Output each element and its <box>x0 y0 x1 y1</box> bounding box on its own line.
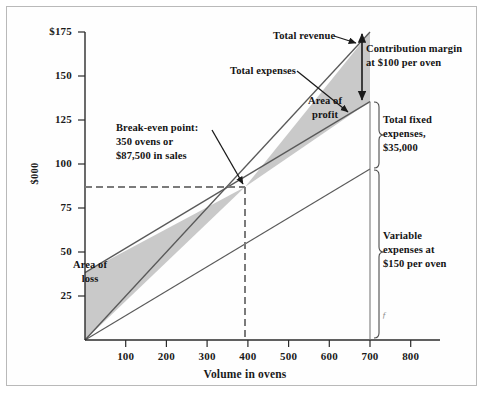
variable-expenses-line-1: Variable <box>383 229 447 243</box>
y-tick-label-150: 150 <box>26 69 72 81</box>
contribution-margin-line-2: at $100 per oven <box>366 56 462 70</box>
contribution-margin-annotation: Contribution margin at $100 per oven <box>366 42 462 70</box>
y-tick-label-50: 50 <box>26 245 72 257</box>
break-even-annotation: Break-even point: 350 ovens or $87,500 i… <box>116 121 198 163</box>
y-axis-ticks <box>78 32 85 296</box>
x-tick-label-200: 200 <box>146 350 186 362</box>
x-tick-label-500: 500 <box>269 350 309 362</box>
area-of-loss-line-2: loss <box>62 272 118 286</box>
break-even-chart: $175 150 125 100 75 50 25 100 200 300 40… <box>0 0 485 394</box>
y-tick-label-175: $175 <box>26 25 72 37</box>
area-of-profit-label: Area of profit <box>297 94 353 122</box>
x-tick-label-300: 300 <box>187 350 227 362</box>
area-of-loss-label: Area of loss <box>62 258 118 286</box>
x-tick-label-400: 400 <box>228 350 268 362</box>
x-tick-label-600: 600 <box>309 350 349 362</box>
area-of-profit-line-2: profit <box>297 108 353 122</box>
fixed-expenses-line-2: expenses, <box>383 127 432 141</box>
variable-expenses-line-3: $150 per oven <box>383 257 447 271</box>
break-even-leader-arrow <box>212 130 243 184</box>
fixed-expenses-line-1: Total fixed <box>383 113 432 127</box>
variable-expenses-annotation: Variable expenses at $150 per oven <box>383 229 447 271</box>
x-tick-label-800: 800 <box>391 350 431 362</box>
x-axis-ticks <box>126 340 411 347</box>
x-tick-label-700: 700 <box>350 350 390 362</box>
break-even-line-2: 350 ovens or <box>116 135 198 149</box>
fixed-expenses-line-3: $35,000 <box>383 141 432 155</box>
area-of-profit-line-1: Area of <box>297 94 353 108</box>
stray-mark: ƒ <box>382 310 387 320</box>
y-axis-title: $000 <box>29 154 40 194</box>
break-even-line-3: $87,500 in sales <box>116 149 198 163</box>
break-even-line-1: Break-even point: <box>116 121 198 135</box>
total-revenue-leader-arrow <box>334 36 356 43</box>
x-axis-title: Volume in ovens <box>150 368 340 380</box>
y-tick-label-25: 25 <box>26 289 72 301</box>
area-of-loss-line-1: Area of <box>62 258 118 272</box>
contribution-margin-line-1: Contribution margin <box>366 42 462 56</box>
y-tick-label-125: 125 <box>26 113 72 125</box>
total-expenses-annotation: Total expenses <box>230 64 296 78</box>
y-tick-label-75: 75 <box>26 201 72 213</box>
total-revenue-annotation: Total revenue <box>273 29 335 43</box>
total-revenue-line <box>85 32 370 340</box>
total-fixed-expenses-annotation: Total fixed expenses, $35,000 <box>383 113 432 155</box>
x-tick-label-100: 100 <box>106 350 146 362</box>
variable-expenses-line-2: expenses at <box>383 243 447 257</box>
